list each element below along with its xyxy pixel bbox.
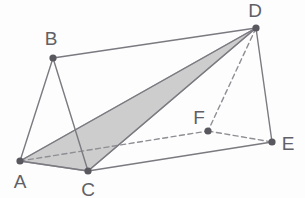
vertex-dot-c [84, 167, 91, 174]
vertex-label-c: C [81, 179, 95, 198]
vertex-dot-d [252, 24, 259, 31]
vertex-dot-e [268, 138, 275, 145]
triangular-prism-diagram: ABCDEF [0, 0, 305, 198]
vertex-dot-f [204, 127, 211, 134]
vertex-dot-b [49, 54, 56, 61]
vertex-label-b: B [45, 28, 58, 49]
vertex-label-d: D [248, 0, 262, 21]
geometric-figure-canvas: ABCDEF [0, 0, 305, 198]
vertex-label-a: A [14, 171, 27, 192]
vertex-dot-a [16, 157, 23, 164]
vertex-label-f: F [193, 107, 205, 128]
vertex-label-e: E [282, 133, 295, 154]
